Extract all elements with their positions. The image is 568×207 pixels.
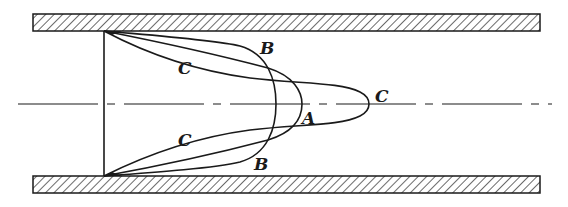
diagram-canvas: B C C A C B (0, 0, 568, 207)
label-b-top: B (259, 38, 274, 58)
label-c-bottom: C (178, 130, 192, 150)
bottom-pipe-wall (33, 176, 540, 193)
label-c-apex: C (375, 86, 389, 106)
label-a: A (300, 108, 315, 128)
pipe-flow-diagram: B C C A C B (0, 0, 568, 207)
top-pipe-wall (33, 14, 540, 31)
label-b-bottom: B (253, 154, 268, 174)
label-c-top: C (178, 58, 192, 78)
